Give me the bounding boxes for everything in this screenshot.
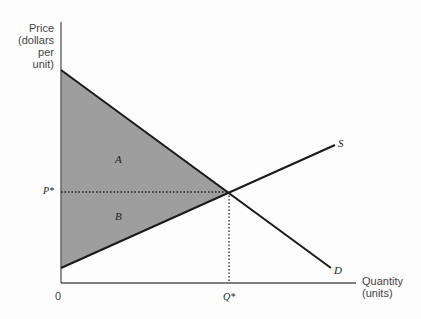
y-axis-label-line: Price bbox=[18, 22, 54, 34]
demand-curve-label: D bbox=[334, 264, 342, 276]
x-axis-label-line: Quantity bbox=[362, 275, 403, 287]
region-a-label: A bbox=[115, 153, 122, 165]
region-b-label: B bbox=[115, 210, 122, 222]
equilibrium-quantity-label: Q* bbox=[223, 291, 235, 302]
supply-demand-diagram: Price (dollars per unit) Quantity (units… bbox=[0, 0, 421, 319]
y-axis-label-line: (dollars bbox=[18, 34, 54, 46]
surplus-shaded-region bbox=[61, 70, 229, 268]
x-axis-label: Quantity (units) bbox=[362, 275, 403, 299]
x-axis-label-line: (units) bbox=[362, 287, 403, 299]
supply-curve-label: S bbox=[338, 137, 344, 149]
y-axis-label-line: per unit) bbox=[18, 46, 54, 70]
origin-label: 0 bbox=[55, 290, 61, 302]
equilibrium-price-label: P* bbox=[43, 185, 54, 196]
y-axis-label: Price (dollars per unit) bbox=[18, 22, 54, 70]
diagram-graphics bbox=[0, 0, 421, 319]
